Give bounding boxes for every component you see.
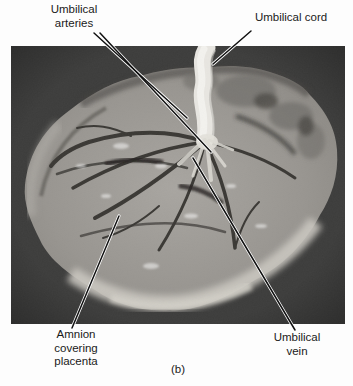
- placenta-photo-art: [11, 46, 345, 324]
- label-amnion-covering-placenta: Amnion covering placenta: [45, 328, 107, 369]
- placenta-photo: [11, 46, 345, 324]
- label-umbilical-vein: Umbilical vein: [266, 331, 328, 358]
- figure-b: Umbilical arteries Umbilical cord Amnion…: [0, 0, 353, 386]
- label-umbilical-cord: Umbilical cord: [241, 11, 341, 25]
- figure-caption: (b): [158, 363, 198, 375]
- label-umbilical-arteries: Umbilical arteries: [43, 3, 105, 30]
